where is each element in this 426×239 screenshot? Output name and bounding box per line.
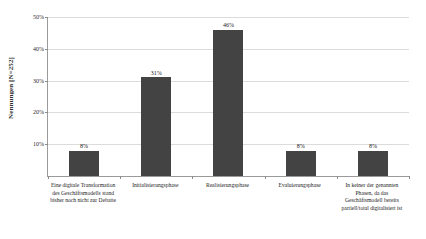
x-tick-mark xyxy=(48,176,49,179)
y-tick-label: 10% xyxy=(33,141,44,147)
bar-group: 8% xyxy=(265,17,337,176)
bar[interactable] xyxy=(286,151,316,176)
x-tick-mark xyxy=(337,176,338,179)
x-axis-category-label: Realisierungsphase xyxy=(194,182,260,190)
y-axis-title-text: Nennungen [N=252] xyxy=(7,57,15,119)
x-tick-mark xyxy=(192,176,193,179)
bar-group: 31% xyxy=(120,17,192,176)
y-tick-label: 30% xyxy=(33,78,44,84)
x-axis-category-label: Eine digitale Transformation des Geschäf… xyxy=(50,182,116,205)
bar-value-label: 8% xyxy=(297,143,305,149)
x-tick-mark xyxy=(265,176,266,179)
y-tick-label: 40% xyxy=(33,46,44,52)
x-tick-mark xyxy=(409,176,410,179)
x-axis-category-label: Evaluierungsphase xyxy=(267,182,333,190)
y-tick-label: 20% xyxy=(33,109,44,115)
y-tick-label: 50% xyxy=(33,14,44,20)
bar[interactable] xyxy=(358,151,388,176)
x-axis-category-label: In keiner der genannten Phasen, da das G… xyxy=(339,182,405,212)
bar-value-label: 8% xyxy=(369,143,377,149)
bar-group: 8% xyxy=(337,17,409,176)
bar-value-label: 46% xyxy=(223,22,234,28)
bar[interactable] xyxy=(69,151,99,176)
x-axis-category-label: Initialisierungsphase xyxy=(122,182,188,190)
bar-group: 8% xyxy=(48,17,120,176)
bar-value-label: 31% xyxy=(151,70,162,76)
bar-group: 46% xyxy=(192,17,264,176)
bar-value-label: 8% xyxy=(80,143,88,149)
plot-area: 10%20%30%40%50% 8%31%46%8%8% xyxy=(47,17,409,177)
y-axis-title: Nennungen [N=252] xyxy=(2,0,20,175)
bar[interactable] xyxy=(213,30,243,176)
x-axis-labels: Eine digitale Transformation des Geschäf… xyxy=(47,182,409,239)
bars-layer: 8%31%46%8%8% xyxy=(48,17,409,176)
bar-chart: Nennungen [N=252] 10%20%30%40%50% 8%31%4… xyxy=(0,0,426,239)
x-tick-mark xyxy=(120,176,121,179)
bar[interactable] xyxy=(141,77,171,176)
